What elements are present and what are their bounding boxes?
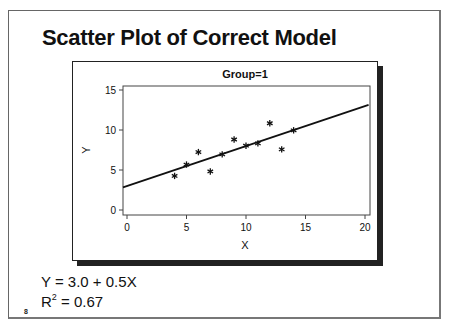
x-axis: 05101520 [124, 215, 371, 233]
data-point-asterisk-icon [196, 149, 202, 155]
y-axis-label: Y [80, 146, 92, 154]
r-squared-value: = 0.67 [57, 293, 103, 310]
y-axis: 051015 [105, 85, 123, 216]
x-tick-label: 0 [124, 222, 130, 233]
y-tick-label: 10 [105, 125, 117, 136]
chart-title: Group=1 [222, 68, 268, 80]
plot-area [123, 86, 370, 215]
x-tick-label: 5 [184, 222, 190, 233]
x-axis-label: X [241, 239, 249, 251]
y-tick-label: 5 [110, 165, 116, 176]
data-point-asterisk-icon [231, 136, 237, 142]
x-tick-label: 15 [300, 222, 312, 233]
r-squared-label: R [41, 293, 52, 310]
x-tick-label: 20 [359, 222, 371, 233]
data-point-asterisk-icon [279, 146, 285, 152]
regression-equation: Y = 3.0 + 0.5X [41, 273, 137, 290]
data-point-asterisk-icon [267, 120, 273, 126]
r-squared: R2 = 0.67 [41, 293, 103, 310]
y-tick-label: 0 [110, 205, 116, 216]
r-squared-superscript: 2 [52, 292, 57, 302]
y-tick-label: 15 [105, 85, 117, 96]
page-number: 8 [24, 308, 28, 315]
data-point-asterisk-icon [172, 173, 178, 179]
data-point-asterisk-icon [208, 168, 214, 174]
x-tick-label: 10 [240, 222, 252, 233]
